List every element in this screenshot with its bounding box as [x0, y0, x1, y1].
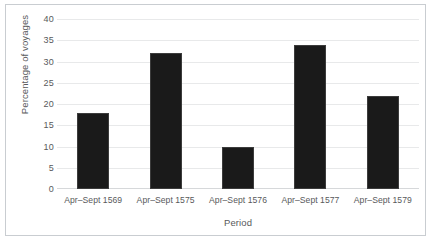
bar[interactable]	[367, 96, 399, 190]
x-axis-title: Period	[57, 217, 419, 228]
x-tick-label: Apr–Sept 1576	[202, 195, 274, 205]
bar-slot	[274, 19, 346, 189]
bar-slot	[202, 19, 274, 189]
plot-area	[57, 19, 419, 189]
x-axis-tick-labels: Apr–Sept 1569 Apr–Sept 1575 Apr–Sept 157…	[57, 195, 419, 205]
x-tick-label: Apr–Sept 1569	[57, 195, 129, 205]
bar[interactable]	[294, 45, 326, 190]
x-tick-label: Apr–Sept 1579	[347, 195, 419, 205]
y-tick-label: 25	[10, 78, 54, 87]
x-tick-label: Apr–Sept 1577	[274, 195, 346, 205]
y-tick-label: 30	[10, 57, 54, 66]
y-axis-tick-labels: 0 5 10 15 20 25 30 35 40	[6, 19, 54, 189]
y-tick-label: 40	[10, 15, 54, 24]
y-tick-label: 0	[10, 185, 54, 194]
bar[interactable]	[150, 53, 182, 189]
y-tick-label: 10	[10, 142, 54, 151]
bar-slot	[347, 19, 419, 189]
bar[interactable]	[222, 147, 254, 190]
y-tick-label: 15	[10, 121, 54, 130]
bar-slot	[129, 19, 201, 189]
x-tick-label: Apr–Sept 1575	[129, 195, 201, 205]
bar[interactable]	[77, 113, 109, 190]
bar-series	[57, 19, 419, 189]
bar-slot	[57, 19, 129, 189]
y-tick-label: 20	[10, 100, 54, 109]
chart-frame: Percentage of voyages 0 5 10 15 20 25 30…	[5, 4, 426, 236]
y-tick-label: 35	[10, 36, 54, 45]
y-tick-label: 5	[10, 163, 54, 172]
